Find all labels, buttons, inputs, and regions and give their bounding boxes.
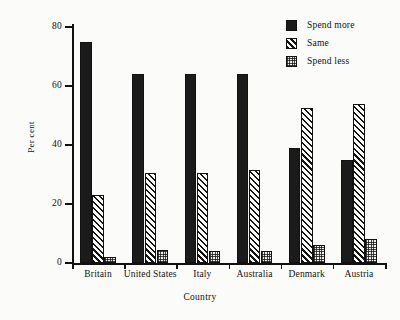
bar-chart-figure: 020406080 Per cent Country BritainUnited…: [0, 0, 400, 320]
bar-austria-spend-more: [341, 160, 353, 263]
legend-swatch-same: [286, 38, 297, 49]
legend-swatch-spend-less: [286, 56, 297, 67]
chart-legend: Spend more Same Spend less: [286, 16, 355, 70]
bar-austria-same: [353, 104, 365, 263]
bar-austria-spend-less: [365, 239, 377, 263]
legend-label-spend-less: Spend less: [307, 56, 349, 66]
legend-item-same: Same: [286, 34, 355, 52]
legend-item-spend-less: Spend less: [286, 52, 355, 70]
x-label-austria: Austria: [309, 269, 400, 279]
legend-item-spend-more: Spend more: [286, 16, 355, 34]
legend-label-same: Same: [307, 38, 329, 48]
legend-label-spend-more: Spend more: [307, 20, 355, 30]
legend-swatch-spend-more: [286, 20, 297, 31]
